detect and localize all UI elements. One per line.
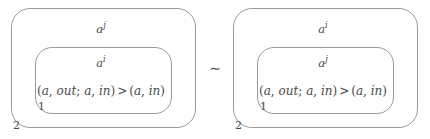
diagram-panel-left: aj ai (a, out; a, in)>(a, in) 1 2 (6, 0, 196, 139)
inner-box-index-right: 1 (260, 101, 267, 112)
formula-arg-a1-left: a (42, 84, 49, 98)
inner-box-index-left: 1 (38, 101, 45, 112)
outer-box-index-left: 2 (13, 120, 20, 131)
formula-arg-in1-left: in (99, 84, 111, 98)
formula-arg-in2-left: in (149, 84, 161, 98)
formula-arg-in1-right: in (321, 84, 333, 98)
inner-box-label-right: aj (228, 58, 418, 70)
formula-arg-out-right: out (278, 84, 298, 98)
equivalence-tilde-icon: ∼ (203, 61, 227, 75)
outer-box-index-right: 2 (235, 120, 242, 131)
formula-operator-left: > (115, 84, 129, 98)
formula-close-paren-2-right: ) (382, 84, 387, 98)
outer-label-superscript-left: j (103, 20, 106, 30)
inner-box-label-left: ai (6, 58, 196, 70)
formula-operator-right: > (337, 84, 351, 98)
equivalence-figure: aj ai (a, out; a, in)>(a, in) 1 2 ∼ ai a… (0, 0, 430, 139)
diagram-panel-right: ai aj (a, out; a, in)>(a, in) 1 2 (228, 0, 418, 139)
formula-arg-a1-right: a (264, 84, 271, 98)
formula-comma-3-left: , (141, 84, 149, 98)
formula-left: (a, out; a, in)>(a, in) (6, 85, 196, 97)
inner-label-superscript-left: i (103, 54, 106, 64)
formula-close-paren-2-left: ) (160, 84, 165, 98)
formula-arg-out-left: out (56, 84, 76, 98)
formula-comma-2-left: , (91, 84, 99, 98)
outer-box-label-left: aj (6, 24, 196, 36)
formula-right: (a, out; a, in)>(a, in) (228, 85, 418, 97)
formula-arg-in2-right: in (371, 84, 383, 98)
outer-label-superscript-right: i (325, 20, 328, 30)
inner-label-superscript-right: j (325, 54, 328, 64)
formula-semicolon-left: ; (76, 84, 84, 98)
formula-comma-3-right: , (363, 84, 371, 98)
formula-semicolon-right: ; (298, 84, 306, 98)
outer-box-label-right: ai (228, 24, 418, 36)
formula-comma-2-right: , (313, 84, 321, 98)
